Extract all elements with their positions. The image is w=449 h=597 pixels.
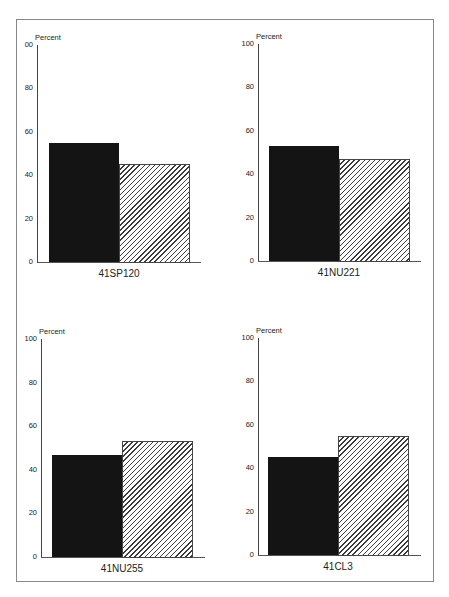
category-label: 41NU255	[52, 563, 192, 574]
y-tick-label: 40	[232, 463, 254, 472]
y-axis-label: Percent	[39, 327, 65, 336]
y-tick-label: 20	[232, 213, 254, 222]
y-axis-line	[258, 44, 259, 261]
y-axis-line	[41, 339, 42, 557]
y-tick-label: 100	[232, 39, 254, 48]
y-tick-label: 60	[15, 421, 37, 430]
y-tick-label: 80	[232, 82, 254, 91]
category-label: 41CL3	[268, 561, 408, 572]
y-tick-label: 60	[232, 420, 254, 429]
bar-hatched	[122, 441, 193, 558]
y-tick-label: 20	[232, 507, 254, 516]
y-tick-label: 00	[11, 40, 33, 49]
bar-hatched	[338, 436, 409, 556]
y-tick-label: 80	[232, 376, 254, 385]
category-label: 41NU221	[269, 267, 409, 278]
bar-solid	[268, 457, 338, 555]
y-tick-label: 0	[232, 256, 254, 265]
y-tick-label: 60	[11, 127, 33, 136]
y-axis-label: Percent	[256, 326, 282, 335]
y-tick-label: 40	[11, 170, 33, 179]
bar-solid	[269, 146, 339, 261]
bar-solid	[52, 455, 122, 557]
bar-solid	[49, 143, 119, 262]
y-axis-label: Percent	[256, 32, 282, 41]
y-tick-label: 0	[11, 257, 33, 266]
y-tick-label: 60	[232, 126, 254, 135]
y-tick-label: 0	[232, 550, 254, 559]
y-tick-label: 40	[15, 465, 37, 474]
y-tick-label: 100	[232, 333, 254, 342]
y-tick-label: 0	[15, 552, 37, 561]
y-tick-label: 20	[15, 508, 37, 517]
y-axis-label: Percent	[35, 33, 61, 42]
y-tick-label: 100	[15, 334, 37, 343]
category-label: 41SP120	[49, 268, 189, 279]
bar-hatched	[339, 159, 410, 262]
y-tick-label: 40	[232, 169, 254, 178]
y-tick-label: 20	[11, 214, 33, 223]
y-axis-line	[37, 45, 38, 262]
y-tick-label: 80	[11, 83, 33, 92]
y-axis-line	[258, 338, 259, 555]
bar-hatched	[119, 164, 190, 263]
y-tick-label: 80	[15, 378, 37, 387]
